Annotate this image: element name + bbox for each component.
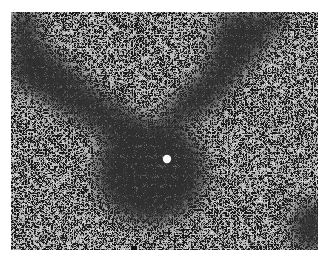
micrograph <box>11 12 318 250</box>
dense-cellular-region <box>11 12 318 250</box>
bottom-mark <box>131 246 137 250</box>
central-lumen <box>163 155 171 163</box>
figure-canvas <box>0 0 326 260</box>
tissue-section <box>11 12 318 250</box>
